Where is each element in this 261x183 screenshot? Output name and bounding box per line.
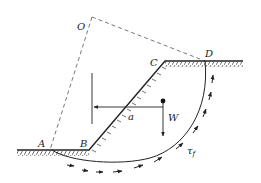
label-O: O (77, 21, 85, 32)
label-a: a (128, 111, 134, 122)
slope-diagram: O A B C D a W τf (0, 0, 261, 183)
ground-profile (17, 61, 243, 156)
slip-radius-lines (50, 17, 205, 150)
centroid-dot (161, 99, 166, 104)
label-tau: τf (187, 145, 197, 158)
label-W: W (168, 112, 179, 123)
label-D: D (204, 48, 213, 59)
label-C: C (150, 57, 158, 68)
label-A: A (37, 138, 45, 149)
label-B: B (79, 138, 87, 149)
